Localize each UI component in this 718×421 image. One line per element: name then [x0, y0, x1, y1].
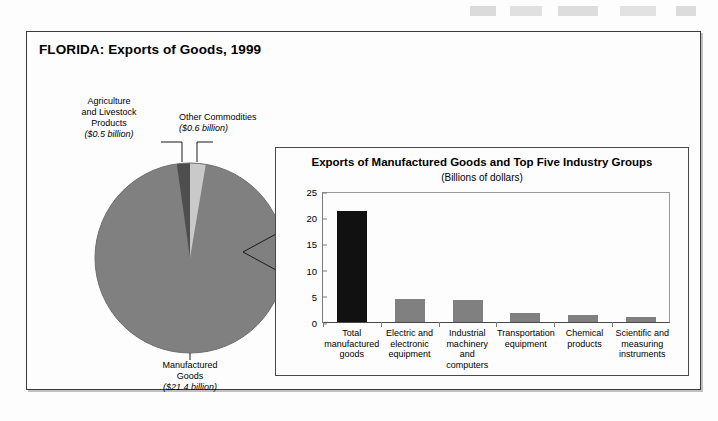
pie-label-manufactured: Manufactured Goods ($21.4 billion) — [105, 360, 275, 393]
x-label-2: Industrialmachinery andcomputers — [438, 328, 496, 370]
inset-subtitle: (Billions of dollars) — [276, 172, 688, 183]
pie-label-agriculture-line1: Agriculture — [55, 96, 163, 107]
bar-cell — [381, 192, 439, 322]
x-tick-mark — [554, 322, 555, 327]
x-label-line: computers — [439, 360, 495, 371]
x-label-line: measuring — [614, 339, 670, 350]
y-tick-10: 10 — [306, 265, 322, 276]
y-tick-5: 5 — [312, 291, 322, 302]
x-tick-mark — [496, 322, 497, 327]
x-label-line: products — [557, 339, 613, 350]
x-label-3: Transportationequipment — [496, 328, 556, 370]
callout-connector — [243, 212, 279, 292]
pie-label-manufactured-value: ($21.4 billion) — [163, 382, 217, 392]
x-label-line: equipment — [382, 349, 438, 360]
pie-label-manufactured-line2: Goods — [105, 371, 275, 382]
x-label-1: Electric andelectronicequipment — [381, 328, 439, 370]
inset-title: Exports of Manufactured Goods and Top Fi… — [276, 156, 688, 168]
pie-label-agriculture-value: ($0.5 billion) — [84, 129, 133, 139]
x-label-line: Chemical — [557, 328, 613, 339]
x-tick-mark — [323, 322, 324, 327]
pie-label-other-value: ($0.6 billion) — [179, 123, 228, 133]
plot-area: 0510152025 — [322, 192, 670, 323]
x-label-line: instruments — [614, 349, 670, 360]
inset-bar-chart-panel: Exports of Manufactured Goods and Top Fi… — [275, 147, 689, 376]
x-label-line: goods — [324, 349, 380, 360]
x-label-line: manufactured — [324, 339, 380, 350]
bar-cell — [439, 192, 497, 322]
bar-cell — [554, 192, 612, 322]
bar-cell — [496, 192, 554, 322]
x-label-line: Total — [324, 328, 380, 339]
x-tick-mark — [612, 322, 613, 327]
x-label-line: Industrial — [439, 328, 495, 339]
x-label-5: Scientific andmeasuringinstruments — [613, 328, 671, 370]
y-tick-0: 0 — [312, 318, 322, 329]
x-label-line: Transportation — [497, 328, 555, 339]
x-label-line: Electric and — [382, 328, 438, 339]
figure-frame: FLORIDA: Exports of Goods, 1999 Agricult — [26, 31, 701, 390]
bar-cell — [323, 192, 381, 322]
bar — [337, 211, 367, 322]
bar-series — [323, 192, 670, 322]
bar — [395, 299, 425, 322]
x-tick-mark — [381, 322, 382, 327]
x-label-line: equipment — [497, 339, 555, 350]
bar — [568, 315, 598, 322]
figure-page: FLORIDA: Exports of Goods, 1999 Agricult — [0, 0, 718, 421]
pie-label-other-line1: Other Commodities — [179, 112, 295, 123]
x-label-4: Chemicalproducts — [556, 328, 614, 370]
x-tick-mark — [439, 322, 440, 327]
bar-cell — [612, 192, 670, 322]
pie-label-other-commodities: Other Commodities ($0.6 billion) — [179, 112, 295, 134]
pie-label-agriculture-line2: and Livestock — [55, 107, 163, 118]
page-title: FLORIDA: Exports of Goods, 1999 — [39, 42, 261, 57]
x-axis-labels: TotalmanufacturedgoodsElectric andelectr… — [323, 328, 671, 370]
pie-label-agriculture: Agriculture and Livestock Products ($0.5… — [55, 96, 163, 140]
y-tick-15: 15 — [306, 239, 322, 250]
bar — [453, 300, 483, 322]
x-label-line: electronic — [382, 339, 438, 350]
bar — [510, 313, 540, 322]
y-tick-25: 25 — [306, 187, 322, 198]
y-tick-20: 20 — [306, 213, 322, 224]
pie-label-manufactured-line1: Manufactured — [105, 360, 275, 371]
x-label-line: Scientific and — [614, 328, 670, 339]
x-label-line: machinery and — [439, 339, 495, 360]
x-label-0: Totalmanufacturedgoods — [323, 328, 381, 370]
bar — [626, 317, 656, 322]
pie-label-agriculture-line3: Products — [55, 118, 163, 129]
scan-artifact — [470, 6, 700, 16]
